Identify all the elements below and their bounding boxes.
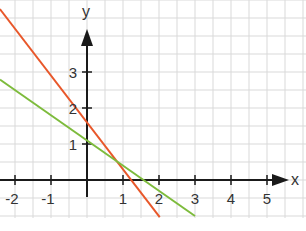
y-axis-arrow-icon <box>81 29 93 46</box>
y-tick-label: 2 <box>69 100 77 117</box>
y-tick-label: 3 <box>69 64 77 81</box>
x-tick-label: 2 <box>155 190 163 207</box>
grid-lines <box>0 0 306 218</box>
green-line <box>0 80 195 216</box>
x-tick-label: 1 <box>119 190 127 207</box>
x-axis-arrow-icon <box>272 174 289 186</box>
x-axis-label: x <box>291 171 299 188</box>
bottom-margin <box>0 218 306 231</box>
x-tick-label: -2 <box>5 190 18 207</box>
y-axis-label: y <box>82 3 90 20</box>
x-tick-label: -1 <box>41 190 54 207</box>
y-tick-label: 1 <box>69 136 77 153</box>
x-tick-label: 4 <box>227 190 235 207</box>
x-tick-label: 5 <box>263 190 271 207</box>
orange-line <box>0 9 160 217</box>
x-tick-label: 3 <box>191 190 199 207</box>
data-series <box>0 9 195 217</box>
coordinate-plane-chart: -2-112345123 x y <box>0 0 306 231</box>
